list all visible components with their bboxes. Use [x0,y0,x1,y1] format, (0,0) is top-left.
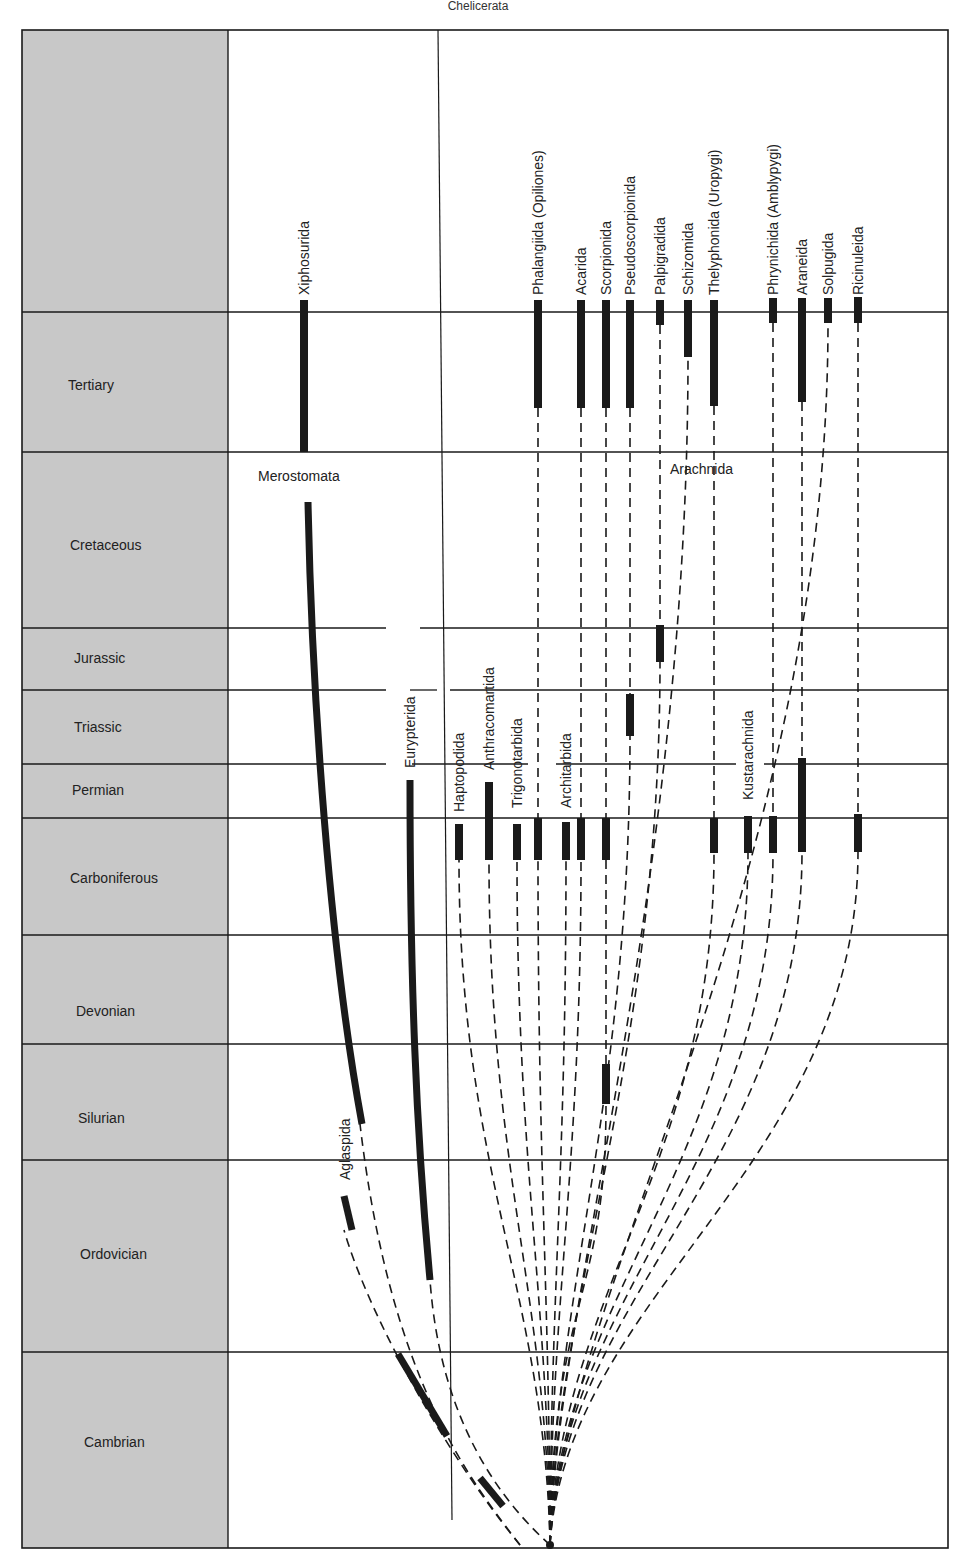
range-bar-acarida [577,300,585,408]
group-label-merostomata: Merostomata [258,468,340,484]
lineage-line-phalangiida-opiliones- [538,860,550,1545]
period-label-tertiary: Tertiary [68,377,114,393]
cambrian-range-bar [480,1478,503,1506]
lineage-line-acarida [550,860,581,1545]
taxon-label-trigonotarbida: Trigonotarbida [509,718,525,808]
range-bar-ricinuleida [854,297,862,323]
taxon-label-acarida: Acarida [573,247,589,295]
range-bar-phrynichida-amblypygi- [769,298,777,323]
range-bar-thelyphonida-uropygi- [710,300,718,406]
period-label-triassic: Triassic [74,719,122,735]
period-label-carboniferous: Carboniferous [70,870,158,886]
fossil-range-bars [300,297,862,1506]
lineage-line-thelyphonida-uropygi- [550,853,714,1545]
period-label-permian: Permian [72,782,124,798]
inferred-lineage-lines [344,323,858,1549]
lineage-line-solpugida [550,323,828,1545]
taxon-label-eurypterida: Eurypterida [402,696,418,768]
range-bar-pseudoscorpionida [626,300,634,408]
period-label-silurian: Silurian [78,1110,125,1126]
range-bar-phrynichida-amblypygi- [769,816,777,853]
range-bar-kustarachnida [744,816,752,853]
range-bar-araneida [798,758,806,852]
range-bar-pseudoscorpionida [626,694,634,736]
taxon-label-solpugida: Solpugida [820,233,836,295]
taxon-label-araneida: Araneida [794,239,810,295]
cambrian-range-bar [398,1354,447,1436]
lineage-line-phrynichida-amblypygi- [550,853,773,1545]
range-bar-acarida [577,818,585,860]
range-bar-architarbida [562,822,570,860]
taxon-label-phrynichida-amblypygi-: Phrynichida (Amblypygi) [765,144,781,295]
range-bar-solpugida [824,298,832,323]
lineage-line-architarbida [550,860,566,1545]
taxon-label-pseudoscorpionida: Pseudoscorpionida [622,176,638,295]
taxon-label-kustarachnida: Kustarachnida [740,710,756,800]
taxon-label-scorpionida: Scorpionida [598,221,614,295]
chelicerata-phylogeny-diagram: Chelicerata TertiaryCretaceousJurassicTr… [0,0,956,1553]
range-bar-xiphosurida [300,300,308,452]
group-label-arachnida: Arachnida [670,461,733,477]
lineage-line-trigonotarbida [517,860,550,1545]
range-bar-phalangiida-opiliones- [534,300,542,408]
group-column-divider [438,30,452,1520]
taxon-label-xiphosurida: Xiphosurida [296,221,312,295]
range-bar-aglaspida [344,1196,352,1230]
range-bar-palpigradida [656,625,664,662]
period-label-cambrian: Cambrian [84,1434,145,1450]
range-bar-eurypterida [410,780,430,1280]
taxon-label-schizomida: Schizomida [680,222,696,295]
range-bar-palpigradida [656,300,664,325]
range-bar-scorpionida [602,1064,610,1104]
period-label-devonian: Devonian [76,1003,135,1019]
range-bar-ricinuleida [854,814,862,852]
period-column-fill [22,30,228,1548]
merostomata-stem-range-bar [308,502,362,1124]
lineage-line-haptopodida [459,860,550,1545]
taxon-label-architarbida: Architarbida [558,733,574,808]
taxon-label-aglaspida: Aglaspida [337,1118,353,1180]
range-bar-thelyphonida-uropygi- [710,818,718,853]
range-bar-araneida [798,298,806,402]
range-bar-anthracomartida [485,782,493,860]
range-bar-haptopodida [455,824,463,860]
range-bar-phalangiida-opiliones- [534,818,542,860]
period-label-jurassic: Jurassic [74,650,125,666]
period-column: TertiaryCretaceousJurassicTriassicPermia… [22,30,228,1548]
taxon-label-haptopodida: Haptopodida [451,732,467,812]
taxon-label-palpigradida: Palpigradida [652,217,668,295]
taxon-label-thelyphonida-uropygi-: Thelyphonida (Uropygi) [706,149,722,295]
period-label-ordovician: Ordovician [80,1246,147,1262]
range-bar-scorpionida [602,300,610,408]
period-label-cretaceous: Cretaceous [70,537,142,553]
range-bar-schizomida [684,300,692,357]
taxon-label-anthracomartida: Anthracomartida [481,667,497,770]
diagram-title: Chelicerata [448,0,509,13]
taxon-label-phalangiida-opiliones-: Phalangiida (Opiliones) [530,150,546,295]
range-bar-scorpionida [602,818,610,860]
range-bar-trigonotarbida [513,824,521,860]
lineage-line-schizomida [550,357,688,1545]
taxon-label-ricinuleida: Ricinuleida [850,226,866,295]
